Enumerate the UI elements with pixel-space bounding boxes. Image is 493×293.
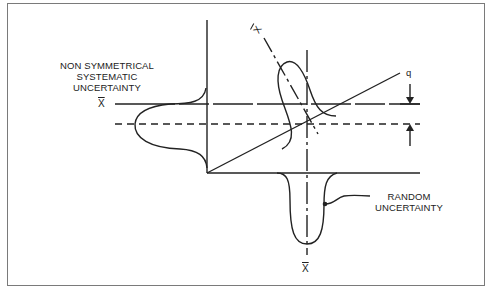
xbar-left-label: X	[98, 98, 105, 109]
non-symmetrical-label-line2: SYSTEMATIC	[52, 71, 162, 82]
xbar-bottom-label: X	[302, 263, 309, 274]
rotated-centerline	[264, 38, 318, 134]
non-symmetrical-label: NON SYMMETRICAL SYSTEMATIC UNCERTAINTY	[52, 60, 162, 93]
random-leader-dot	[323, 202, 328, 207]
left-distribution-curve	[135, 88, 207, 168]
random-label-line1: RANDOM	[364, 191, 454, 202]
random-label-line2: UNCERTAINTY	[364, 202, 454, 213]
random-uncertainty-label: RANDOM UNCERTAINTY	[364, 191, 454, 213]
q-label: q	[406, 67, 411, 78]
non-symmetrical-label-line1: NON SYMMETRICAL	[52, 60, 162, 71]
xbar-bottom-text: X	[302, 263, 309, 274]
non-symmetrical-label-line3: UNCERTAINTY	[52, 82, 162, 93]
transfer-line	[207, 73, 400, 173]
q-arrowhead-up	[406, 124, 414, 131]
q-arrowhead-down	[406, 97, 414, 104]
diagram-canvas	[0, 0, 493, 293]
xbar-left-text: X	[98, 98, 105, 109]
